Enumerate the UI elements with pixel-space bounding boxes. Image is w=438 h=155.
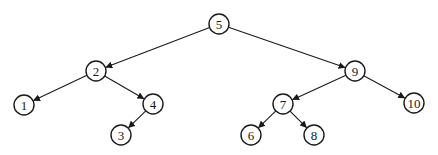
edge-9-to-10: [364, 76, 405, 98]
tree-diagram: 52914371068: [0, 0, 438, 155]
nodes-layer: 52914371068: [14, 14, 424, 145]
tree-node-7: 7: [273, 94, 293, 114]
edge-2-to-1: [33, 75, 86, 100]
node-label: 7: [280, 97, 287, 112]
node-label: 5: [216, 17, 223, 32]
tree-node-8: 8: [304, 125, 324, 145]
edge-4-to-3: [129, 111, 146, 128]
tree-node-1: 1: [14, 95, 34, 115]
tree-node-6: 6: [241, 125, 261, 145]
tree-node-9: 9: [345, 61, 365, 81]
tree-node-2: 2: [86, 61, 106, 81]
tree-node-5: 5: [209, 14, 229, 34]
edge-2-to-4: [105, 76, 144, 99]
node-label: 8: [311, 128, 318, 143]
edge-9-to-7: [293, 75, 346, 99]
node-label: 2: [93, 64, 100, 79]
tree-node-4: 4: [143, 94, 163, 114]
node-label: 3: [118, 128, 125, 143]
node-label: 10: [408, 96, 421, 111]
node-label: 1: [21, 98, 28, 113]
node-label: 6: [248, 128, 255, 143]
node-label: 4: [150, 97, 157, 112]
tree-node-3: 3: [111, 125, 131, 145]
edge-7-to-8: [290, 111, 307, 128]
edge-7-to-6: [259, 111, 276, 128]
tree-node-10: 10: [404, 93, 424, 113]
edge-5-to-2: [106, 28, 210, 68]
node-label: 9: [352, 64, 359, 79]
edge-5-to-9: [228, 27, 345, 67]
